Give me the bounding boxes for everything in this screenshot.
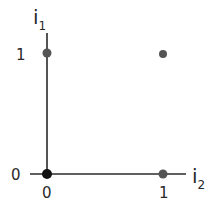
diagram-canvas: i1 i2 1 0 0 1 bbox=[0, 0, 216, 208]
y-tick-1: 1 bbox=[16, 46, 26, 64]
x-axis-label: i2 bbox=[192, 164, 205, 192]
point-1-1 bbox=[159, 50, 167, 58]
point-0-0 bbox=[42, 169, 52, 179]
x-tick-1: 1 bbox=[159, 184, 169, 202]
point-0-1 bbox=[43, 49, 52, 58]
y-tick-0: 0 bbox=[11, 166, 21, 184]
x-tick-0: 0 bbox=[42, 184, 52, 202]
y-axis-label: i1 bbox=[33, 5, 46, 33]
point-1-0 bbox=[159, 170, 168, 179]
